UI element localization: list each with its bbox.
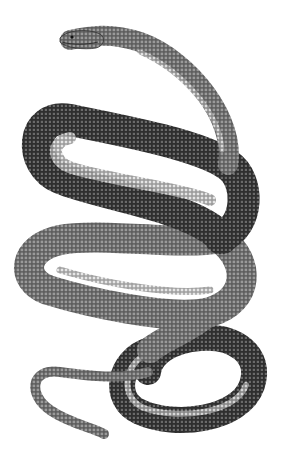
illustration	[0, 0, 283, 460]
eye	[70, 35, 73, 38]
snake-illustration-svg	[0, 0, 283, 460]
snake-body	[29, 36, 254, 434]
snake-head	[60, 31, 103, 49]
